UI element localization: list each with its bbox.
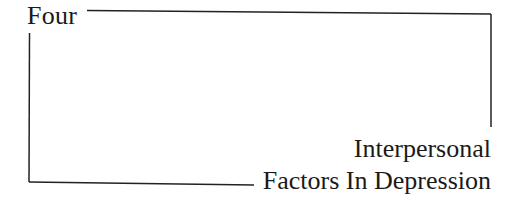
- left-rule: [29, 33, 30, 182]
- chapter-number: Four: [27, 2, 77, 30]
- chapter-title-line-2: Factors In Depression: [263, 167, 491, 195]
- bottom-rule: [29, 182, 254, 185]
- top-rule: [87, 11, 491, 15]
- chapter-title-line-1: Interpersonal: [354, 135, 491, 163]
